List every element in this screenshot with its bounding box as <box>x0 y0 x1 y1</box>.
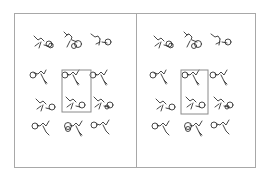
molecular-packing <box>30 32 113 136</box>
molecular-packing <box>150 32 233 136</box>
right-stereo-panel <box>136 13 257 168</box>
left-stereo-panel <box>15 13 136 168</box>
